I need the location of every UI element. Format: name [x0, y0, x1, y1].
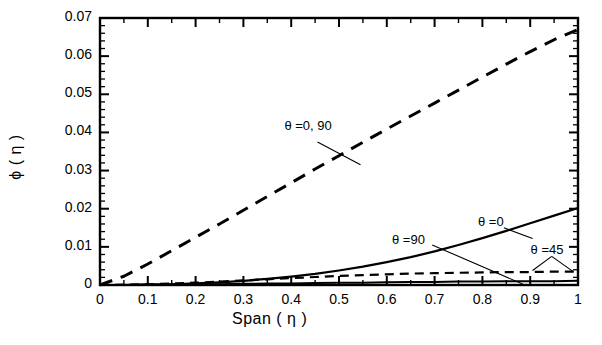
series-line-0 [100, 29, 578, 285]
y-tick-label-2: 0.02 [40, 199, 92, 215]
y-tick-label-4: 0.04 [40, 122, 92, 138]
chart-figure: 0 0.01 0.02 0.03 0.04 0.05 0.06 0.07 0 0… [0, 0, 602, 345]
x-tick-label-0: 0 [77, 291, 123, 307]
y-tick-label-6: 0.06 [40, 46, 92, 62]
data-curves [100, 29, 578, 285]
y-tick-label-5: 0.05 [40, 84, 92, 100]
x-tick-label-1: 0.1 [125, 291, 171, 307]
x-tick-label-9: 0.9 [507, 291, 553, 307]
leader-line-1 [432, 245, 523, 284]
leader-line-0 [317, 142, 360, 165]
y-tick-label-1: 0.01 [40, 237, 92, 253]
x-tick-label-7: 0.7 [412, 291, 458, 307]
leader-line-2 [504, 228, 533, 239]
x-axis-title: Span ( η ) [232, 310, 307, 328]
x-tick-label-6: 0.6 [364, 291, 410, 307]
curve-annotation-theta-0: θ =0 [478, 214, 504, 229]
y-tick-label-7: 0.07 [40, 8, 92, 24]
y-axis-title: ϕ ( η ) [7, 119, 25, 195]
curve-annotation-theta-0-90: θ =0, 90 [284, 118, 331, 133]
leader-line-3 [533, 256, 552, 270]
axis-ticks [100, 18, 578, 285]
y-tick-label-0: 0 [40, 275, 92, 291]
y-tick-label-3: 0.03 [40, 161, 92, 177]
series-line-1 [100, 208, 578, 285]
leader-line-4 [552, 256, 574, 271]
x-tick-label-10: 1 [555, 291, 601, 307]
annotation-leader-lines [317, 142, 573, 284]
x-tick-label-5: 0.5 [316, 291, 362, 307]
x-tick-label-8: 0.8 [459, 291, 505, 307]
curve-annotation-theta-90: θ =90 [392, 232, 425, 247]
curve-annotation-theta-45: θ =45 [531, 242, 564, 257]
x-tick-label-2: 0.2 [173, 291, 219, 307]
x-tick-label-4: 0.4 [268, 291, 314, 307]
x-tick-label-3: 0.3 [220, 291, 266, 307]
plot-frame [100, 18, 578, 285]
